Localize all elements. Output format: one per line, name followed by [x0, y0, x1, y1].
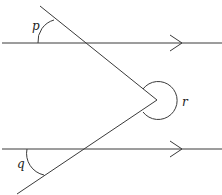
angle-r-arc	[143, 81, 177, 119]
angle-p-arc	[38, 20, 54, 43]
label-p: p	[32, 19, 40, 33]
label-q: q	[17, 157, 25, 171]
upper-transversal	[40, 6, 157, 100]
lower-transversal	[17, 100, 157, 194]
angle-q-arc	[27, 149, 44, 175]
top-parallel-line	[2, 35, 222, 51]
label-r: r	[182, 95, 189, 109]
bottom-parallel-line	[2, 141, 222, 157]
angle-diagram: p q r	[0, 0, 222, 195]
